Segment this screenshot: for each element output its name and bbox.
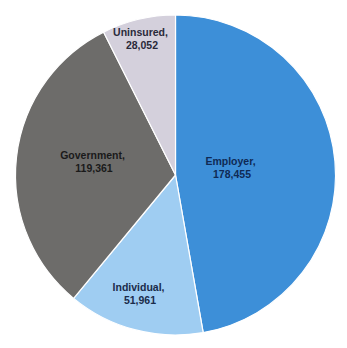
label-uninsured-name: Uninsured, bbox=[113, 26, 168, 38]
pie-slices bbox=[16, 15, 336, 335]
label-employer: Employer, 178,455 bbox=[205, 155, 258, 180]
label-employer-value: 178,455 bbox=[213, 168, 251, 180]
label-employer-name: Employer, bbox=[205, 155, 255, 167]
pie-chart: Employer, 178,455 Individual, 51,961 Gov… bbox=[0, 0, 347, 348]
slice-employer bbox=[176, 15, 336, 333]
label-government-value: 119,361 bbox=[75, 162, 113, 174]
label-government-name: Government, bbox=[60, 149, 125, 161]
label-individual-value: 51,961 bbox=[124, 294, 156, 306]
label-uninsured-value: 28,052 bbox=[126, 39, 158, 51]
label-individual-name: Individual, bbox=[113, 281, 165, 293]
